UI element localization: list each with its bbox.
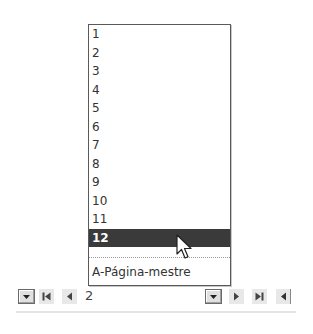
page-list-item-2[interactable]: 2 <box>89 44 230 63</box>
page-navigation-screen: 1 2 3 4 5 6 7 8 9 10 11 12 A-Página-mest… <box>0 0 313 334</box>
first-page-icon <box>42 292 51 301</box>
last-page-icon <box>255 292 264 301</box>
first-page-button[interactable] <box>39 289 54 304</box>
page-list-item-5[interactable]: 5 <box>89 99 230 118</box>
page-list-item-12-selected[interactable]: 12 <box>89 229 230 248</box>
scroll-left-button[interactable] <box>276 289 291 304</box>
chevron-down-icon <box>23 295 30 299</box>
page-list-item-8[interactable]: 8 <box>89 155 230 174</box>
mouse-pointer-icon <box>176 234 196 262</box>
list-separator <box>89 257 230 258</box>
page-list-item-11[interactable]: 11 <box>89 210 230 229</box>
page-list-item-3[interactable]: 3 <box>89 62 230 81</box>
page-list-item-4[interactable]: 4 <box>89 81 230 100</box>
master-page-item[interactable]: A-Página-mestre <box>89 262 230 282</box>
chevron-down-icon <box>210 295 217 299</box>
last-page-button[interactable] <box>252 289 267 304</box>
page-dropdown-button[interactable] <box>205 289 222 304</box>
page-list-item-10[interactable]: 10 <box>89 192 230 211</box>
page-dropdown-list[interactable]: 1 2 3 4 5 6 7 8 9 10 11 12 A-Página-mest… <box>88 24 231 286</box>
next-page-button[interactable] <box>229 289 244 304</box>
previous-page-icon <box>66 292 73 301</box>
layout-dropdown-button[interactable] <box>18 289 35 304</box>
scroll-left-icon <box>280 292 287 301</box>
previous-page-button[interactable] <box>62 289 77 304</box>
current-page-field[interactable]: 2 <box>82 287 202 305</box>
page-list-item-1[interactable]: 1 <box>89 25 230 44</box>
page-navigation-bar: 2 <box>0 287 300 307</box>
next-page-icon <box>233 292 240 301</box>
scrollbar-track <box>16 311 296 313</box>
page-list-item-6[interactable]: 6 <box>89 118 230 137</box>
page-list-item-7[interactable]: 7 <box>89 136 230 155</box>
page-list-item-9[interactable]: 9 <box>89 173 230 192</box>
